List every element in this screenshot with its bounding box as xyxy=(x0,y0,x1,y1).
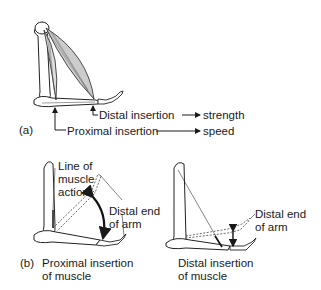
right-caption-1: Distal insertion xyxy=(178,257,253,270)
line-of-muscle-label-3: action xyxy=(58,186,89,199)
panel-b-tag: (b) xyxy=(20,257,34,270)
line-of-muscle-label-1: Line of xyxy=(58,160,93,173)
left-caption-2: of muscle xyxy=(42,270,91,283)
speed-label: speed xyxy=(203,125,234,138)
panel-b-right-arm xyxy=(166,163,256,250)
left-caption-1: Proximal insertion xyxy=(42,257,133,270)
proximal-insertion-label: Proximal insertion xyxy=(67,125,158,138)
distal-insertion-label: Distal insertion xyxy=(99,109,174,122)
left-distal-end-label-1: Distal end xyxy=(109,205,160,218)
panel-a-tag: (a) xyxy=(19,124,33,137)
right-caption-2: of muscle xyxy=(178,270,227,283)
panel-a-arm xyxy=(34,22,123,107)
diagram-artwork xyxy=(0,0,321,290)
line-of-muscle-label-2: muscle xyxy=(58,173,94,186)
strength-label: strength xyxy=(203,109,245,122)
left-distal-end-label-2: of arm xyxy=(109,218,142,231)
right-distal-end-label-1: Distal end xyxy=(255,208,306,221)
right-distal-end-label-2: of arm xyxy=(255,221,288,234)
